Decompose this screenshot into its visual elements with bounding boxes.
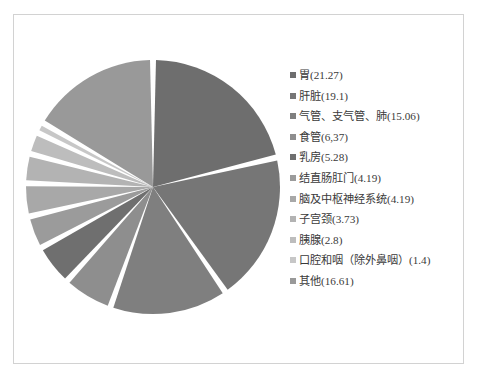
legend-color-swatch-icon — [290, 196, 296, 202]
legend-item[interactable]: 结直肠肛门(4.19) — [290, 172, 466, 184]
legend-color-swatch-icon — [290, 113, 296, 119]
legend-item-label: 肝脏(19.1) — [299, 90, 348, 102]
legend-color-swatch-icon — [290, 216, 296, 222]
pie-chart-graphic — [25, 59, 281, 315]
legend-item[interactable]: 食管(6,37) — [290, 131, 466, 143]
legend-item-label: 子宫颈(3.73) — [299, 213, 359, 225]
pie-slice-group — [26, 60, 280, 314]
legend-item[interactable]: 其他(16.61) — [290, 275, 466, 287]
legend-item-label: 胰腺(2.8) — [299, 234, 342, 246]
legend-color-swatch-icon — [290, 154, 296, 160]
chart-legend: 胃(21.27)肝脏(19.1)气管、支气管、肺(15.06)食管(6,37)乳… — [290, 69, 466, 296]
legend-color-swatch-icon — [290, 134, 296, 140]
screenshot-root: 胃(21.27)肝脏(19.1)气管、支气管、肺(15.06)食管(6,37)乳… — [0, 0, 477, 384]
legend-item-label: 胃(21.27) — [299, 69, 343, 81]
legend-item-label: 口腔和咽（除外鼻咽）(1.4) — [299, 254, 430, 266]
legend-item-label: 食管(6,37) — [299, 131, 348, 143]
legend-item[interactable]: 子宫颈(3.73) — [290, 213, 466, 225]
legend-item[interactable]: 脑及中枢神经系统(4.19) — [290, 193, 466, 205]
legend-color-swatch-icon — [290, 93, 296, 99]
legend-item[interactable]: 肝脏(19.1) — [290, 90, 466, 102]
legend-color-swatch-icon — [290, 278, 296, 284]
legend-item-label: 乳房(5.28) — [299, 151, 348, 163]
legend-item-label: 脑及中枢神经系统(4.19) — [299, 193, 414, 205]
pie-svg — [25, 59, 281, 315]
legend-item-label: 其他(16.61) — [299, 275, 354, 287]
legend-color-swatch-icon — [290, 257, 296, 263]
legend-color-swatch-icon — [290, 72, 296, 78]
legend-item[interactable]: 气管、支气管、肺(15.06) — [290, 110, 466, 122]
pie-chart-figure: 胃(21.27)肝脏(19.1)气管、支气管、肺(15.06)食管(6,37)乳… — [14, 15, 465, 365]
legend-color-swatch-icon — [290, 237, 296, 243]
legend-item-label: 结直肠肛门(4.19) — [299, 172, 381, 184]
legend-item[interactable]: 口腔和咽（除外鼻咽）(1.4) — [290, 254, 466, 266]
legend-item-label: 气管、支气管、肺(15.06) — [299, 110, 420, 122]
legend-item[interactable]: 胃(21.27) — [290, 69, 466, 81]
legend-item[interactable]: 胰腺(2.8) — [290, 234, 466, 246]
legend-item[interactable]: 乳房(5.28) — [290, 151, 466, 163]
document-frame: 胃(21.27)肝脏(19.1)气管、支气管、肺(15.06)食管(6,37)乳… — [13, 14, 464, 364]
legend-color-swatch-icon — [290, 175, 296, 181]
